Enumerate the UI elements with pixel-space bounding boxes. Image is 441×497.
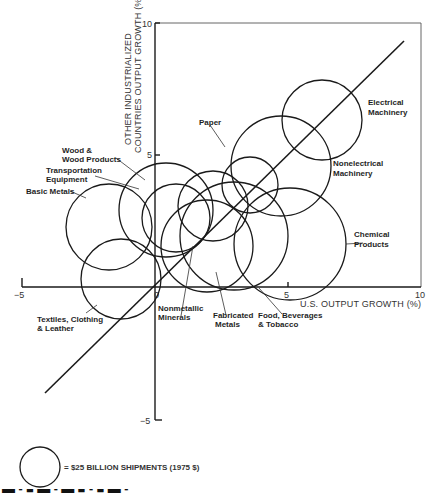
bubble-labels: Electrical Machinery Nonelectrical Machi… [26, 98, 408, 333]
label-paper: Paper [199, 118, 221, 127]
label-transport-2: Equipment [46, 175, 88, 184]
legend: = $25 BILLION SHIPMENTS (1975 $) [20, 447, 200, 487]
bubble-chemical-products [234, 188, 346, 300]
bubble-electrical-machinery [282, 80, 362, 160]
cropped-caption-fragment: ▬ ▪ ■ ▬ ▪ ▬ ■ ▪ ■ ▬ ▪ [0, 489, 441, 497]
legend-circle [20, 447, 60, 487]
label-food-1: Food, Beverages [258, 311, 323, 320]
label-basic-metals: Basic Metals [26, 187, 75, 196]
label-textiles-2: & Leather [37, 324, 74, 333]
label-textiles-1: Textiles, Clothing [37, 315, 103, 324]
bubble-nonelectrical-machinery [231, 116, 331, 216]
y-tick-5: 5 [147, 150, 152, 160]
bubbles [66, 80, 362, 319]
label-electrical-1: Electrical [368, 98, 404, 107]
legend-text: = $25 BILLION SHIPMENTS (1975 $) [64, 463, 200, 472]
x-tick-neg5: −5 [14, 290, 24, 300]
reference-line-45deg [45, 41, 404, 393]
y-tick-10: 10 [142, 19, 152, 29]
bubble-textiles [81, 239, 161, 319]
x-tick-5: 5 [284, 290, 289, 300]
label-fabricated-2: Metals [215, 320, 240, 329]
bubble-fabricated-metals [161, 200, 253, 292]
x-axis-title: U.S. OUTPUT GROWTH (%) [300, 299, 421, 309]
y-axis-title-line1: OTHER INDUSTRIALIZED [123, 33, 133, 145]
label-nonelectrical-1: Nonelectrical [333, 159, 383, 168]
label-food-2: & Tobacco [258, 320, 298, 329]
y-tick-neg5: −5 [140, 416, 150, 426]
label-wood-2: Wood Products [62, 155, 122, 164]
label-chemical-2: Products [354, 240, 389, 249]
label-nonmetallic-2: Minerals [158, 313, 191, 322]
label-chemical-1: Chemical [354, 230, 390, 239]
bubble-basic-metals [66, 184, 152, 270]
caption-fragment-text: ▬ ▪ ■ ▬ ▪ ▬ ■ ▪ ■ ▬ ▪ [2, 489, 129, 497]
label-nonmetallic-1: Nonmetallic [158, 304, 204, 313]
label-fabricated-1: Fabricated [213, 311, 254, 320]
label-electrical-2: Machinery [368, 108, 408, 117]
label-transport-1: Transportation [46, 166, 102, 175]
bubble-chart: −5 0 5 10 10 5 −5 U.S. OUTPUT GROWTH (%)… [0, 0, 441, 497]
label-wood-1: Wood & [62, 146, 92, 155]
y-axis-title-line2: COUNTRIES OUTPUT GROWTH (%) [133, 0, 143, 153]
label-nonelectrical-2: Machinery [333, 169, 373, 178]
